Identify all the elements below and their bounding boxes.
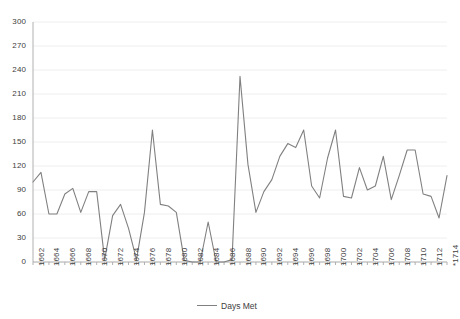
x-axis-tick-label: 1694 <box>291 248 300 266</box>
x-axis-tick-label: *1714 <box>451 245 460 266</box>
x-axis-tick-label: 1666 <box>68 248 77 266</box>
x-axis-tick-label: 1700 <box>339 248 348 266</box>
x-axis-tick-label: 1702 <box>355 248 364 266</box>
legend-label: Days Met <box>221 301 257 311</box>
y-axis-tick-label: 90 <box>0 185 26 194</box>
x-axis-tick-label: 1706 <box>387 248 396 266</box>
x-axis-tick-label: 1684 <box>212 248 221 266</box>
y-axis-tick-label: 180 <box>0 113 26 122</box>
y-axis-tick-label: 30 <box>0 233 26 242</box>
x-axis-tick-label: 1710 <box>419 248 428 266</box>
y-axis-tick-label: 270 <box>0 41 26 50</box>
y-axis-tick-label: 120 <box>0 161 26 170</box>
x-axis-tick-label: 1708 <box>403 248 412 266</box>
x-axis-tick-label: 1676 <box>148 248 157 266</box>
x-axis-tick-label: 1712 <box>435 248 444 266</box>
y-axis-tick-label: 150 <box>0 137 26 146</box>
x-axis-tick-label: 1704 <box>371 248 380 266</box>
x-axis-tick-label: 1680 <box>180 248 189 266</box>
x-axis-tick-label: 1688 <box>244 248 253 266</box>
x-axis-tick-label: 1668 <box>84 248 93 266</box>
x-axis-tick-label: 1678 <box>164 248 173 266</box>
x-axis-tick-label: 1674 <box>132 248 141 266</box>
x-axis-tick-label: 1662 <box>37 248 46 266</box>
x-axis-tick-label: 1664 <box>52 248 61 266</box>
legend-line-marker-icon <box>197 305 217 306</box>
y-axis-tick-label: 240 <box>0 65 26 74</box>
y-axis-tick-label: 60 <box>0 209 26 218</box>
x-axis-tick-label: 1690 <box>259 248 268 266</box>
x-axis-tick-label: 1698 <box>323 248 332 266</box>
legend-entry-days-met: Days Met <box>197 300 257 311</box>
y-axis-tick-label: 210 <box>0 89 26 98</box>
chart-legend: Days Met <box>0 300 454 311</box>
x-axis-tick-label: 1686 <box>228 248 237 266</box>
x-axis-tick-label: 1696 <box>307 248 316 266</box>
y-axis-tick-label: 0 <box>0 257 26 266</box>
x-axis-tick-label: 1672 <box>116 248 125 266</box>
x-axis-tick-label: 1670 <box>100 248 109 266</box>
series-line-days-met <box>33 76 447 262</box>
y-axis-tick-label: 300 <box>0 17 26 26</box>
x-axis-tick-label: 1682 <box>196 248 205 266</box>
x-axis-tick-label: 1692 <box>275 248 284 266</box>
